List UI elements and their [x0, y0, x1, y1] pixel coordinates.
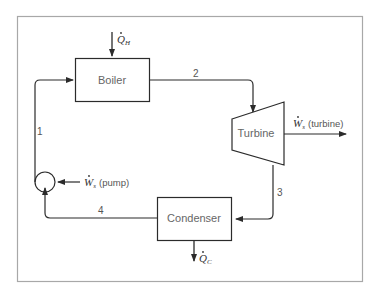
- svg-text:(turbine): (turbine): [308, 118, 343, 129]
- diagram-frame: [18, 17, 363, 282]
- stream-4-label: 4: [98, 205, 104, 216]
- svg-text:(pump): (pump): [99, 177, 129, 188]
- stream-3-line: [236, 165, 273, 219]
- condenser-label: Condenser: [167, 212, 221, 224]
- stream-2-line: [150, 80, 253, 112]
- stream-1-label: 1: [37, 126, 43, 137]
- turbine-work-label: Ws (turbine): [293, 116, 343, 131]
- turbine-unit: Turbine: [232, 102, 284, 165]
- boiler-label: Boiler: [98, 74, 126, 86]
- svg-text:QC: QC: [199, 252, 212, 266]
- heat-out-label: QC: [199, 251, 212, 266]
- boiler-unit: Boiler: [76, 59, 150, 102]
- svg-text:QH: QH: [117, 33, 131, 47]
- rankine-cycle-diagram: Boiler QH 2 Turbine Ws (turbine) 3 Conde…: [0, 0, 379, 294]
- heat-in-label: QH: [117, 32, 131, 47]
- svg-text:Ws: Ws: [84, 176, 96, 190]
- pump-work-label: Ws (pump): [84, 175, 129, 190]
- svg-text:Ws: Ws: [293, 117, 305, 131]
- stream-2-label: 2: [193, 68, 199, 79]
- turbine-label: Turbine: [238, 127, 275, 139]
- stream-3-label: 3: [277, 187, 283, 198]
- condenser-unit: Condenser: [158, 198, 232, 241]
